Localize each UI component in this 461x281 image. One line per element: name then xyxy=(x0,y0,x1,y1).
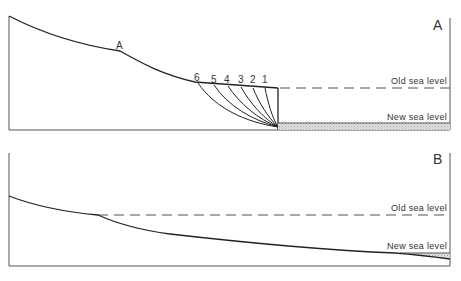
panel-a-knickpoint-label: A xyxy=(116,40,123,51)
panel-a: A 6 5 4 3 2 1 Old sea level New sea leve… xyxy=(9,16,450,130)
stage-label-3: 3 xyxy=(238,74,244,85)
retreat-stages xyxy=(198,83,278,127)
panel-a-old-sea-level-label: Old sea level xyxy=(391,76,447,86)
retreat-arc-6 xyxy=(198,83,278,127)
panel-a-new-sea-water xyxy=(278,123,450,130)
panel-b-land-profile xyxy=(9,196,450,259)
stage-label-6: 6 xyxy=(194,72,200,83)
stage-label-5: 5 xyxy=(211,74,217,85)
sea-level-diagram: A 6 5 4 3 2 1 Old sea level New sea leve… xyxy=(0,0,461,281)
panel-a-title: A xyxy=(433,17,443,33)
panel-b-old-sea-level-label: Old sea level xyxy=(391,203,447,213)
panel-b-new-sea-level-label: New sea level xyxy=(387,241,447,251)
stage-label-2: 2 xyxy=(250,74,256,85)
stage-label-1: 1 xyxy=(262,74,268,85)
panel-a-new-sea-level-label: New sea level xyxy=(387,112,447,122)
panel-b-title: B xyxy=(433,151,442,167)
stage-label-4: 4 xyxy=(224,74,230,85)
panel-b: Old sea level New sea level B xyxy=(9,151,450,266)
retreat-arc-1 xyxy=(265,88,278,127)
